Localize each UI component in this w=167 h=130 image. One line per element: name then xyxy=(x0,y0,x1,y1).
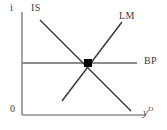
diagram-canvas xyxy=(0,0,167,130)
lm-curve-label: LM xyxy=(119,11,135,21)
is-curve-label: IS xyxy=(31,3,41,13)
bp-curve-label: BP xyxy=(144,56,157,66)
x-axis-label: yD xyxy=(143,106,153,118)
origin-label: 0 xyxy=(10,104,15,114)
y-axis-label: i xyxy=(10,2,13,13)
equilibrium-point-marker xyxy=(84,59,92,67)
x-axis-label-superscript: D xyxy=(148,105,153,113)
islm-bp-diagram: i 0 yD IS LM BP xyxy=(0,0,167,130)
